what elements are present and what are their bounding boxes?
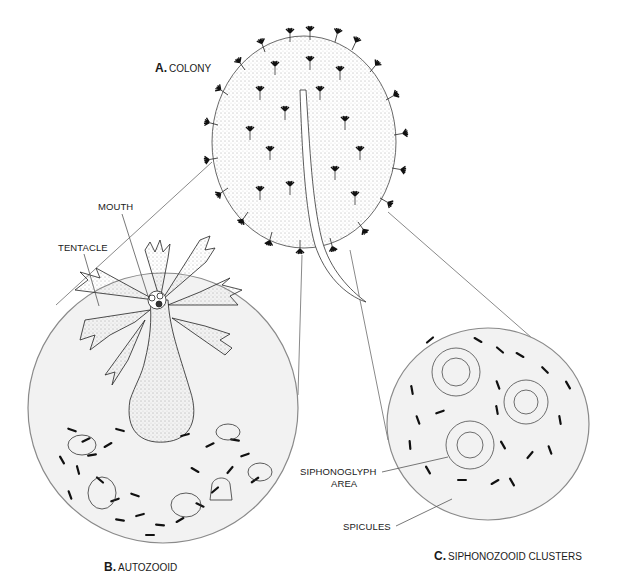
- siphonoglyph-callout-line2: AREA: [331, 478, 357, 489]
- colony-drawing: [203, 26, 408, 302]
- panel-b-letter: B.: [104, 560, 116, 574]
- panel-c-name: SIPHONOZOOID CLUSTERS: [448, 551, 582, 562]
- colony-illustration: A.COLONY MOUTH TENTACLE SIPHONOGLYPH ARE…: [0, 0, 617, 576]
- panel-c-letter: C.: [434, 549, 446, 563]
- panel-b-name: AUTOZOOID: [118, 562, 177, 573]
- siphonoglyph-callout-line1: SIPHONOGLYPH: [300, 466, 377, 477]
- panel-a-name: COLONY: [169, 63, 211, 74]
- illustration-artwork: [0, 0, 617, 576]
- siphonozooid-circle: [387, 328, 589, 520]
- panel-b-caption: B.AUTOZOOID: [104, 560, 177, 574]
- tentacle-callout: TENTACLE: [58, 242, 108, 253]
- spicules-callout: SPICULES: [343, 521, 391, 532]
- panel-a-caption: A.COLONY: [155, 61, 211, 75]
- panel-a-letter: A.: [155, 61, 167, 75]
- panel-c-caption: C.SIPHONOZOOID CLUSTERS: [434, 549, 582, 563]
- mouth-callout: MOUTH: [98, 201, 133, 212]
